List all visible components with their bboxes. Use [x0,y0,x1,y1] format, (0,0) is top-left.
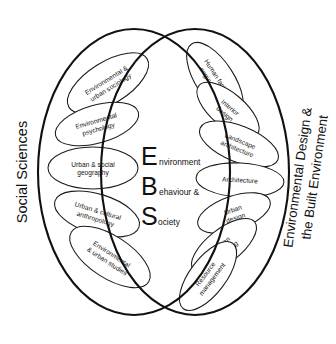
core-cap-s: S [141,202,158,230]
core-rest-behaviour: ehaviour & [159,187,199,197]
core-rest-society: ociety [158,217,181,227]
left-petal-label: Urban & social [71,161,115,168]
side-label-right-group: Environmental Design & the Built Environ… [280,106,330,248]
diagram-root: Environmental &urban sociologyEnvironmen… [0,0,336,344]
petal-group-right: Human factorsengineeringInteriordesignLa… [169,34,285,320]
side-label-left-group: Social Sciences [14,121,30,223]
ebs-venn-diagram: Environmental &urban sociologyEnvironmen… [0,0,336,344]
core-cap-e: E [141,142,158,170]
core-cap-b: B [141,172,158,200]
left-petal-label-line2: geography [77,169,109,177]
left-petal-shape [48,147,138,189]
left-petal: Urban & socialgeography [48,147,138,189]
core-label-group: E nvironment B ehaviour & S ociety [141,142,201,230]
side-label-social-sciences: Social Sciences [14,121,30,223]
core-rest-environment: nvironment [159,157,201,167]
petal-group-left: Environmental &urban sociologyEnvironmen… [48,41,160,300]
